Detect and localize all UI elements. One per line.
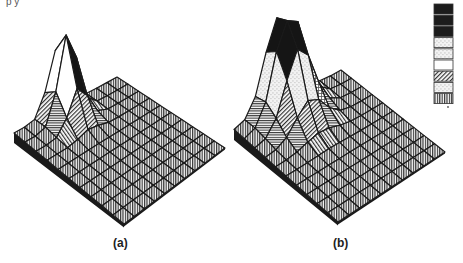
legend-swatch-black [434, 4, 453, 14]
figure-canvas [0, 0, 463, 263]
legend-swatch-vertical-hatch [434, 94, 453, 104]
caption-b: (b) [333, 236, 348, 250]
legend-swatch-light-speckle [434, 82, 453, 92]
surface-plot-a [14, 35, 225, 227]
header-fragment: p y [6, 0, 19, 7]
legend-swatch-black [434, 15, 453, 25]
legend-swatch-black [434, 26, 453, 36]
legend-swatch-diagonal-hatch [434, 71, 453, 81]
legend-swatch-white-speckle [434, 49, 453, 59]
legend-swatch-white [434, 60, 453, 70]
surface-plot-b [234, 18, 445, 226]
legend-swatch-white-speckle [434, 38, 453, 48]
caption-a: (a) [113, 236, 128, 250]
legend [434, 4, 453, 108]
legend-marker [447, 106, 449, 108]
